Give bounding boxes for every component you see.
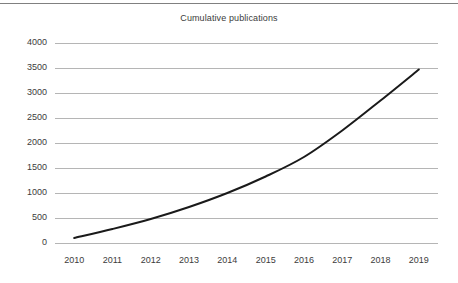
x-axis-tick-label: 2014 [217,255,237,265]
plot-area [0,0,458,283]
x-axis-tick-label: 2016 [294,255,314,265]
y-axis-tick-label: 4000 [3,37,47,47]
x-axis-tick-label: 2019 [409,255,429,265]
y-axis-tick-label: 1000 [3,187,47,197]
x-axis-tick-label: 2012 [141,255,161,265]
y-axis-tick-label: 2000 [3,137,47,147]
x-axis-tick-label: 2017 [332,255,352,265]
y-axis-tick-label: 1500 [3,162,47,172]
data-line-group [74,70,419,239]
y-axis-tick-label: 3500 [3,62,47,72]
x-axis-tick-label: 2015 [256,255,276,265]
data-series-line [74,70,419,239]
y-axis-tick-label: 500 [3,212,47,222]
y-axis-tick-label: 0 [3,237,47,247]
gridline-group [55,44,438,244]
x-axis-tick-label: 2018 [371,255,391,265]
chart-figure: Cumulative publications 0500100015002000… [0,0,458,283]
x-axis-tick-label: 2010 [64,255,84,265]
y-axis-tick-label: 2500 [3,112,47,122]
x-axis-tick-label: 2011 [103,255,122,265]
x-axis-tick-label: 2013 [179,255,199,265]
y-axis-tick-label: 3000 [3,87,47,97]
